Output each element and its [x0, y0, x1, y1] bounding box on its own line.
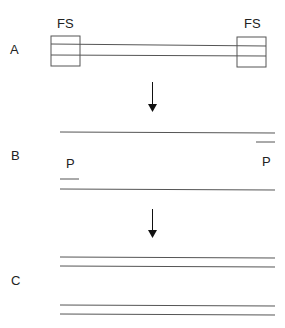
strand-c1-bottom [60, 266, 275, 267]
panel-label-a: A [10, 42, 19, 57]
primer-left-label: P [66, 156, 75, 171]
strand-top-b [60, 132, 275, 133]
panel-label-c: C [11, 273, 20, 288]
strand-c2-top [60, 305, 275, 306]
right-fs-box [237, 37, 266, 67]
left-fs-box [51, 36, 80, 66]
right-fs-label: FS [244, 16, 261, 31]
panel-b: B P P [11, 132, 275, 190]
primer-right-label: P [262, 154, 271, 169]
left-fs-label: FS [57, 16, 74, 31]
arrow-down-icon [148, 82, 157, 112]
pcr-diagram: A FS FS B P P C [0, 0, 285, 328]
strand-top-a [51, 44, 266, 46]
strand-c1-top [60, 257, 275, 258]
panel-a: A FS FS [10, 16, 266, 67]
arrow-down-icon [148, 209, 157, 238]
panel-c: C [11, 257, 275, 315]
strand-c2-bottom [60, 314, 275, 315]
panel-label-b: B [11, 148, 20, 163]
strand-bottom-a [51, 55, 266, 56]
strand-bottom-b [60, 189, 275, 190]
